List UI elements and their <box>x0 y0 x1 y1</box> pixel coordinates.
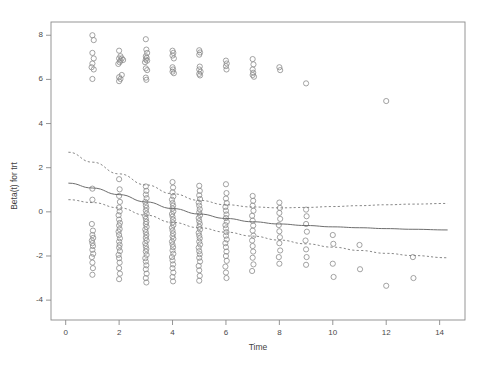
scatter-point <box>276 222 281 227</box>
scatter-point <box>250 238 255 243</box>
scatter-point <box>250 56 255 61</box>
x-axis-tick-label: 4 <box>170 329 174 337</box>
scatter-point <box>224 190 229 195</box>
scatter-point <box>90 76 95 81</box>
y-axis-title: Beta(t) for trt <box>9 162 19 210</box>
plot-frame <box>51 22 465 320</box>
scatter-point <box>250 228 255 233</box>
scatter-point <box>357 242 362 247</box>
scatter-point <box>117 232 122 237</box>
scatter-point <box>197 183 202 188</box>
fit-curve-smooth-fit <box>68 183 447 230</box>
scatter-point <box>250 203 255 208</box>
scatter-point <box>303 247 308 252</box>
scatter-point <box>384 98 389 103</box>
scatter-point <box>331 274 336 279</box>
scatter-point <box>117 199 122 204</box>
scatter-point <box>91 56 96 61</box>
scatter-point <box>170 179 175 184</box>
scatter-point <box>117 236 122 241</box>
scatter-point <box>117 271 122 276</box>
scatter-point <box>197 255 202 260</box>
scatter-point <box>223 270 228 275</box>
scatter-point <box>331 241 336 246</box>
scatter-point <box>90 266 95 271</box>
scatter-point <box>224 258 229 263</box>
scatter-point <box>250 255 255 260</box>
scatter-point <box>278 216 283 221</box>
scatter-point <box>251 223 256 228</box>
x-axis-tick-label: 0 <box>63 329 67 337</box>
scatter-point <box>330 261 335 266</box>
scatter-point <box>277 210 282 215</box>
scatter-point <box>144 47 149 52</box>
scatter-point <box>277 261 282 266</box>
x-axis-tick-label: 6 <box>224 329 228 337</box>
x-axis-tick-label: 12 <box>382 329 391 337</box>
scatter-point <box>411 275 416 280</box>
scatter-point <box>224 67 229 72</box>
scatter-point <box>276 254 281 259</box>
y-axis-tick-label: 2 <box>27 164 43 172</box>
scatter-point <box>251 208 256 213</box>
scatter-point <box>89 221 94 226</box>
scatter-point <box>89 254 94 259</box>
scatter-point <box>250 268 255 273</box>
fit-curve-upper-confidence-band <box>68 152 447 208</box>
scatter-point <box>90 50 95 55</box>
scatter-point <box>117 277 122 282</box>
scatter-point <box>117 48 122 53</box>
scatter-point <box>197 73 202 78</box>
scatter-point <box>143 37 148 42</box>
scatter-point <box>223 233 228 238</box>
y-axis-tick-label: 8 <box>27 31 43 39</box>
scatter-series-residuals-lower-cluster <box>89 177 416 289</box>
scatter-point <box>90 33 95 38</box>
scatter-point <box>277 200 282 205</box>
y-axis-tick-label: -4 <box>27 296 43 304</box>
scatter-point <box>170 185 175 190</box>
scatter-series-residuals-upper-cluster <box>89 33 389 104</box>
scatter-point <box>224 275 229 280</box>
scatter-point <box>304 229 309 234</box>
x-axis-tick-label: 10 <box>328 329 337 337</box>
scatter-point <box>117 177 122 182</box>
scatter-point <box>250 213 255 218</box>
scatter-point <box>303 81 308 86</box>
scatter-point <box>277 229 282 234</box>
scatter-point <box>197 196 202 201</box>
x-axis-tick-label: 14 <box>435 329 444 337</box>
x-axis-title: Time <box>249 342 268 352</box>
scatter-point <box>277 241 282 246</box>
scatter-point <box>90 186 95 191</box>
scatter-point <box>91 38 96 43</box>
scatter-point <box>90 272 95 277</box>
chart-canvas <box>0 0 481 365</box>
scatter-point <box>250 243 255 248</box>
scatter-point <box>330 232 335 237</box>
scatter-point <box>251 249 256 254</box>
y-axis-tick-label: 6 <box>27 75 43 83</box>
scatter-point <box>250 193 255 198</box>
scatter-point <box>223 264 228 269</box>
scatter-point <box>143 192 148 197</box>
scatter-point <box>303 238 308 243</box>
scatter-point <box>251 62 256 67</box>
scatter-point <box>197 278 202 283</box>
scatter-point <box>90 260 95 265</box>
scatter-point <box>384 283 389 288</box>
scatter-point <box>117 266 122 271</box>
y-axis-tick-label: 4 <box>27 120 43 128</box>
y-axis-tick-label: 0 <box>27 208 43 216</box>
scatter-point <box>90 197 95 202</box>
scatter-point <box>145 50 150 55</box>
scatter-point <box>197 273 202 278</box>
scatter-point <box>117 187 122 192</box>
scatter-point <box>90 61 95 66</box>
scatter-plot-figure: Time Beta(t) for trt 0246810121486420-2-… <box>0 0 481 365</box>
scatter-point <box>171 71 176 76</box>
scatter-point <box>278 248 283 253</box>
scatter-point <box>224 219 229 224</box>
scatter-point <box>251 198 256 203</box>
x-axis-tick-label: 2 <box>117 329 121 337</box>
